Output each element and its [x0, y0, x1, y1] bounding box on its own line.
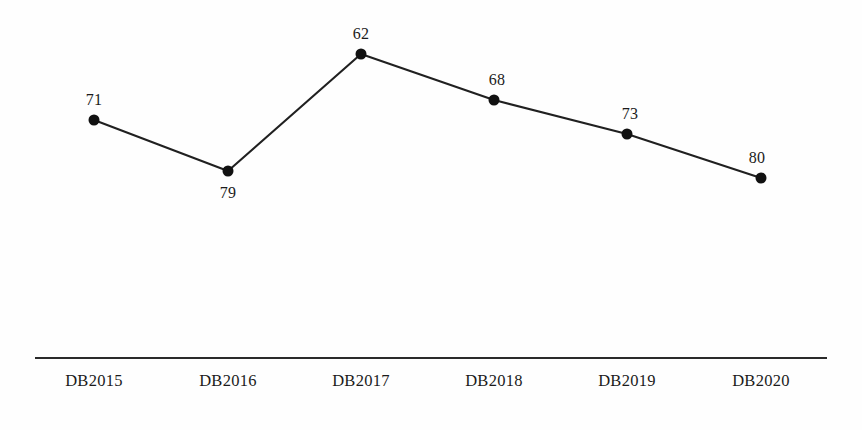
data-point-marker	[223, 166, 234, 177]
series-markers-group	[89, 49, 767, 184]
x-axis-line	[35, 357, 827, 359]
x-tick-label-db2016: DB2016	[199, 373, 257, 390]
data-point-label: 71	[86, 92, 102, 108]
series-line	[94, 54, 761, 178]
line-chart: 717962687380 DB2015DB2016DB2017DB2018DB2…	[0, 0, 862, 430]
data-point-label: 62	[353, 26, 369, 42]
x-tick-label-db2018: DB2018	[465, 373, 523, 390]
data-point-marker	[489, 95, 500, 106]
data-point-marker	[356, 49, 367, 60]
data-point-marker	[89, 115, 100, 126]
x-tick-label-db2017: DB2017	[332, 373, 390, 390]
data-point-label: 79	[220, 185, 236, 201]
data-point-marker	[622, 129, 633, 140]
data-point-marker	[756, 173, 767, 184]
x-tick-label-db2019: DB2019	[598, 373, 656, 390]
x-tick-label-db2020: DB2020	[732, 373, 790, 390]
series-line-group	[94, 54, 761, 178]
x-tick-label-db2015: DB2015	[65, 373, 123, 390]
data-point-label: 73	[622, 106, 638, 122]
chart-plot-area	[0, 0, 862, 430]
data-point-label: 68	[489, 72, 505, 88]
data-point-label: 80	[749, 150, 765, 166]
